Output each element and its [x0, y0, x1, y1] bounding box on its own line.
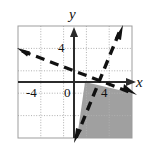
y-axis-label: y [69, 7, 76, 22]
x-tick-label-negative-4: -4 [26, 86, 37, 99]
graph-canvas [0, 0, 145, 150]
x-axis-label: x [136, 75, 143, 90]
x-tick-label-4: 4 [101, 86, 108, 99]
coordinate-plane-figure: y x 4 -4 0 4 [0, 0, 145, 150]
origin-label: 0 [64, 86, 71, 99]
y-tick-label-4: 4 [58, 41, 65, 54]
